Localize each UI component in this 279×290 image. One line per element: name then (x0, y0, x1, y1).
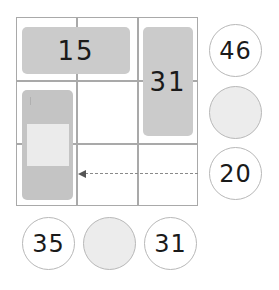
grid-column-line-2 (137, 17, 139, 206)
arrow-left-icon (78, 170, 86, 178)
right-circle-1: 46 (209, 24, 262, 77)
dashed-arrow-line (80, 173, 198, 175)
bottom-circle-3-value: 31 (154, 230, 187, 258)
bottom-circle-2-blank[interactable] (83, 217, 136, 270)
bottom-circle-1: 35 (22, 217, 75, 270)
right-circle-2-blank[interactable] (209, 86, 262, 139)
right-circle-1-value: 46 (219, 37, 252, 65)
right-circle-3-value: 20 (219, 160, 252, 188)
bottom-circle-3: 31 (144, 217, 197, 270)
right-circle-3: 20 (209, 147, 262, 200)
block-top-horizontal-value: 15 (57, 36, 94, 66)
block-right-vertical: 31 (143, 27, 193, 136)
block-top-horizontal: 15 (22, 27, 130, 74)
bottom-circle-1-value: 35 (32, 230, 65, 258)
blank-answer-box[interactable] (27, 124, 69, 166)
faint-mark (30, 97, 31, 105)
block-right-vertical-value: 31 (149, 67, 186, 97)
